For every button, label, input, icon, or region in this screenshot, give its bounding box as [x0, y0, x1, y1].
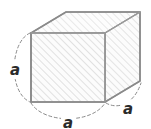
- dimension-label-depth: a: [123, 100, 133, 118]
- cube-diagram-svg: a a a: [0, 0, 151, 129]
- cube-diagram: a a a: [0, 0, 151, 129]
- dimension-label-width: a: [63, 114, 73, 129]
- dimension-label-height: a: [10, 61, 20, 79]
- cube-front-face: [31, 33, 105, 102]
